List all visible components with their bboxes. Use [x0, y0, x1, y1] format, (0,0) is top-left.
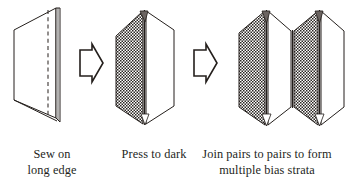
light-panel-d — [321, 11, 344, 125]
figure-step-1 — [14, 8, 60, 122]
arrow-1-icon — [80, 44, 103, 82]
caption-step-3-line-1: Join pairs to pairs to form — [188, 147, 346, 163]
figure-step-2 — [116, 10, 174, 125]
diagram-canvas: Sew on long edge Press to dark Join pair… — [0, 0, 346, 192]
caption-step-1: Sew on long edge — [2, 147, 102, 178]
caption-step-1-line-1: Sew on — [2, 147, 102, 163]
figure-step-3 — [239, 10, 344, 126]
dark-panel-c — [294, 11, 318, 125]
caption-row: Sew on long edge Press to dark Join pair… — [0, 142, 346, 192]
dark-panel-a — [239, 11, 265, 125]
caption-step-3: Join pairs to pairs to form multiple bia… — [188, 147, 346, 178]
caption-step-3-line-2: multiple bias strata — [188, 163, 346, 179]
dark-panel — [116, 11, 143, 124]
fabric-strip-face — [14, 8, 56, 118]
light-panel — [146, 11, 174, 124]
light-panel-b — [268, 11, 291, 125]
arrow-2-icon — [194, 44, 217, 82]
caption-step-1-line-2: long edge — [2, 163, 102, 179]
